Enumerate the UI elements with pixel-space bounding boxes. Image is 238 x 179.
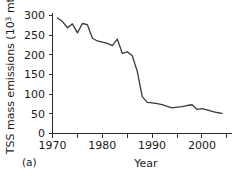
data-series-line bbox=[57, 18, 222, 113]
x-tick-label-2000: 2000 bbox=[188, 139, 216, 152]
y-tick-label-50: 50 bbox=[31, 108, 45, 121]
figure-panel: 0 50 100 150 200 250 300 1970 1980 1990 … bbox=[0, 0, 238, 179]
y-tick-label-300: 300 bbox=[24, 9, 45, 22]
x-tick-label-1970: 1970 bbox=[39, 139, 67, 152]
y-tick-label-200: 200 bbox=[24, 49, 45, 62]
x-tick-label-1990: 1990 bbox=[138, 139, 166, 152]
y-axis-title-tail: mt) bbox=[4, 0, 17, 17]
x-tick-label-1980: 1980 bbox=[88, 139, 116, 152]
line-chart: 0 50 100 150 200 250 300 1970 1980 1990 … bbox=[0, 0, 238, 179]
y-axis-title: TSS mass emissions (103 mt) bbox=[4, 0, 18, 155]
y-axis-ticks bbox=[49, 16, 53, 134]
y-tick-label-250: 250 bbox=[24, 29, 45, 42]
panel-label: (a) bbox=[22, 156, 37, 168]
x-axis-title: Year bbox=[133, 157, 158, 170]
y-tick-label-100: 100 bbox=[24, 88, 45, 101]
y-axis-title-main: TSS mass emissions (10 bbox=[4, 21, 17, 155]
x-axis-ticks bbox=[53, 134, 227, 139]
y-tick-label-150: 150 bbox=[24, 68, 45, 81]
